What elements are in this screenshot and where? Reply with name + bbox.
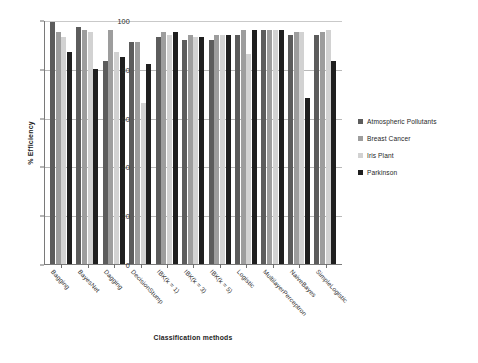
bar-group <box>154 21 180 264</box>
bar <box>209 40 214 264</box>
legend-swatch-icon <box>358 153 363 158</box>
legend-item: Atmospheric Pollutants <box>358 118 476 125</box>
bar-chart: % Efficiency 020406080100 BaggingBayesNe… <box>0 0 478 363</box>
bar <box>314 35 319 264</box>
y-axis-tick-label: 40 <box>122 163 130 172</box>
bar <box>273 30 278 264</box>
x-axis-tick-label: IBK(k = 5) <box>209 268 234 294</box>
y-axis-title-container: % Efficiency <box>22 21 38 265</box>
bar <box>326 30 331 264</box>
bar <box>279 30 284 264</box>
bar <box>299 32 304 264</box>
bar <box>67 52 72 264</box>
bar <box>82 30 87 264</box>
bar <box>141 103 146 264</box>
bar <box>146 64 151 264</box>
bar <box>220 35 225 264</box>
bar-group <box>233 21 259 264</box>
bar-group <box>313 21 339 264</box>
y-axis-tick-mark <box>40 69 44 70</box>
bar <box>241 30 246 264</box>
bar <box>161 32 166 264</box>
bar <box>261 30 266 264</box>
plot-frame <box>44 21 342 265</box>
bar <box>199 37 204 264</box>
bar <box>182 40 187 264</box>
x-axis-tick-label: NaiveBayes <box>289 268 318 298</box>
bar <box>294 32 299 264</box>
x-axis-tick-label: BayesNet <box>76 268 101 294</box>
y-axis-tick-label: 20 <box>122 212 130 221</box>
bar <box>129 42 134 264</box>
bar <box>226 35 231 264</box>
bar-group <box>180 21 206 264</box>
bar-group <box>127 21 153 264</box>
x-axis-tick-labels: BaggingBayesNetDaggingDecisionStumpIBK(k… <box>44 268 342 326</box>
legend-item: Breast Cancer <box>358 135 476 142</box>
bar-group <box>260 21 286 264</box>
bar-group <box>48 21 74 264</box>
bar <box>267 30 272 264</box>
y-axis-tick-label: 80 <box>122 65 130 74</box>
y-axis-tick-mark <box>40 167 44 168</box>
x-axis-tick-label: IBK(k = 3) <box>183 268 208 294</box>
bar <box>108 30 113 264</box>
bar <box>305 98 310 264</box>
bar <box>50 22 55 264</box>
legend-item: Iris Plant <box>358 152 476 159</box>
x-axis-tick-label: Bagging <box>50 268 72 290</box>
x-axis-title: Classification methods <box>44 334 342 341</box>
bar <box>320 32 325 264</box>
bar-group <box>74 21 100 264</box>
y-axis-tick-mark <box>40 21 44 22</box>
bar-group <box>101 21 127 264</box>
bar <box>331 61 336 264</box>
bar-group <box>286 21 312 264</box>
bar <box>156 37 161 264</box>
bar <box>252 30 257 264</box>
bar-group <box>207 21 233 264</box>
bar <box>246 54 251 264</box>
legend-item: Parkinson <box>358 169 476 176</box>
bar <box>288 35 293 264</box>
legend-label: Atmospheric Pollutants <box>367 118 437 125</box>
bar <box>214 35 219 264</box>
y-axis-tick-mark <box>40 118 44 119</box>
bar <box>120 57 125 264</box>
bar <box>76 27 81 264</box>
bar <box>193 37 198 264</box>
bar <box>56 32 61 264</box>
bar <box>61 37 66 264</box>
bar <box>135 42 140 264</box>
y-axis-tick-label: 60 <box>122 114 130 123</box>
bar <box>188 35 193 264</box>
legend-label: Iris Plant <box>367 152 394 159</box>
legend-swatch-icon <box>358 170 363 175</box>
bar <box>167 35 172 264</box>
y-axis-tick-label: 100 <box>117 17 130 26</box>
bar <box>93 69 98 264</box>
x-axis-tick-label: SimpleLogistic <box>315 268 349 304</box>
legend-swatch-icon <box>358 119 363 124</box>
bar <box>173 32 178 264</box>
legend-label: Parkinson <box>367 169 397 176</box>
y-axis-title: % Efficiency <box>27 121 34 165</box>
y-axis-tick-mark <box>40 265 44 266</box>
legend-swatch-icon <box>358 136 363 141</box>
chart-legend: Atmospheric PollutantsBreast CancerIris … <box>358 118 476 186</box>
bar-groups <box>45 21 342 264</box>
bar <box>88 32 93 264</box>
legend-label: Breast Cancer <box>367 135 410 142</box>
x-axis-tick-label: IBK(k = 1) <box>156 268 181 294</box>
bar <box>103 61 108 264</box>
plot-area <box>44 21 342 265</box>
x-axis-tick-label: Logistic <box>236 268 256 289</box>
y-axis-tick-mark <box>40 216 44 217</box>
bar <box>114 52 119 264</box>
bar <box>235 35 240 264</box>
x-axis-tick-label: Dagging <box>103 268 125 291</box>
